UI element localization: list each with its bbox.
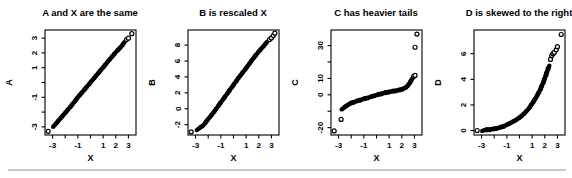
data-point-open [332, 129, 336, 133]
y-tick-label: -20 [317, 121, 326, 133]
data-point-open [559, 32, 563, 36]
y-axis-label: D [433, 79, 443, 86]
data-point-open [46, 129, 50, 133]
y-tick-label: 2 [460, 102, 469, 107]
y-tick-label: 0 [174, 106, 183, 111]
y-tick-label: 0 [317, 92, 326, 97]
y-tick-label: 4 [460, 77, 469, 82]
y-tick-label: 2 [31, 50, 40, 55]
y-tick-label: 30 [317, 41, 326, 50]
y-tick-label: -3 [31, 123, 40, 131]
data-point-band [547, 64, 551, 68]
bottom-divider-rule [8, 169, 566, 171]
panel-a-title: A and X are the same [42, 7, 138, 18]
y-axis-label: C [290, 79, 300, 86]
data-point-open [413, 45, 417, 49]
y-tick-label: 0 [460, 128, 469, 133]
qq-panel-a: A and X are the same -3-1123-3-1123XA [0, 0, 143, 166]
qq-panels-row: A and X are the same -3-1123-3-1123XA B … [0, 0, 572, 166]
x-tick-label: 3 [126, 141, 131, 150]
qq-panel-b: B is rescaled X -3-1123-202468XB [143, 0, 286, 166]
panel-a-plot: -3-1123-3-1123XA [0, 22, 143, 164]
y-tick-label: -2 [174, 121, 183, 129]
data-point-open [415, 32, 419, 36]
qq-panel-d: D is skewed to the right -3-11230246XD [429, 0, 572, 166]
x-tick-label: -1 [74, 141, 82, 150]
x-axis-label: X [230, 153, 236, 163]
x-tick-label: 2 [400, 141, 405, 150]
x-tick-label: 3 [269, 141, 274, 150]
panel-b-plot: -3-1123-202468XB [143, 22, 286, 164]
x-tick-label: -3 [335, 141, 343, 150]
data-point-open [555, 45, 559, 49]
panel-d-plot: -3-11230246XD [429, 22, 572, 164]
y-tick-label: 3 [31, 35, 40, 40]
y-tick-label: 1 [31, 65, 40, 70]
x-tick-label: 2 [114, 141, 119, 150]
qq-plot-figure: A and X are the same -3-1123-3-1123XA B … [0, 0, 572, 178]
y-tick-label: 4 [174, 74, 183, 79]
y-tick-label: 6 [174, 58, 183, 63]
x-axis-label: X [87, 153, 93, 163]
x-tick-label: 2 [257, 141, 262, 150]
panel-c-title: C has heavier tails [334, 7, 417, 18]
x-tick-label: -3 [192, 141, 200, 150]
x-tick-label: 3 [555, 141, 560, 150]
x-tick-label: -3 [49, 141, 57, 150]
x-tick-label: 1 [530, 141, 535, 150]
x-tick-label: 1 [387, 141, 392, 150]
x-tick-label: -3 [478, 141, 486, 150]
y-tick-label: 8 [174, 42, 183, 47]
x-tick-label: 2 [543, 141, 548, 150]
x-tick-label: 1 [244, 141, 249, 150]
panel-b-title: B is rescaled X [199, 7, 267, 18]
y-tick-label: -1 [31, 93, 40, 101]
panel-d-title: D is skewed to the right [466, 7, 572, 18]
y-tick-label: 2 [174, 90, 183, 95]
x-tick-label: 3 [412, 141, 417, 150]
x-axis-label: X [516, 153, 522, 163]
data-point-open [413, 73, 417, 77]
y-tick-label: 6 [460, 51, 469, 56]
x-tick-label: 1 [101, 141, 106, 150]
data-point-open [189, 130, 193, 134]
data-point-open [126, 36, 130, 40]
y-axis-label: A [4, 79, 14, 86]
x-tick-label: -1 [503, 141, 511, 150]
data-point-open [130, 32, 134, 36]
x-axis-label: X [373, 153, 379, 163]
y-axis-label: B [147, 79, 157, 86]
data-point-open [273, 31, 277, 35]
x-tick-label: -1 [217, 141, 225, 150]
x-tick-label: -1 [360, 141, 368, 150]
data-point-open [475, 129, 479, 133]
data-point-open [339, 117, 343, 121]
panel-c-plot: -3-1123-2001030XC [286, 22, 429, 164]
qq-panel-c: C has heavier tails -3-1123-2001030XC [286, 0, 429, 166]
y-tick-label: 10 [317, 73, 326, 82]
